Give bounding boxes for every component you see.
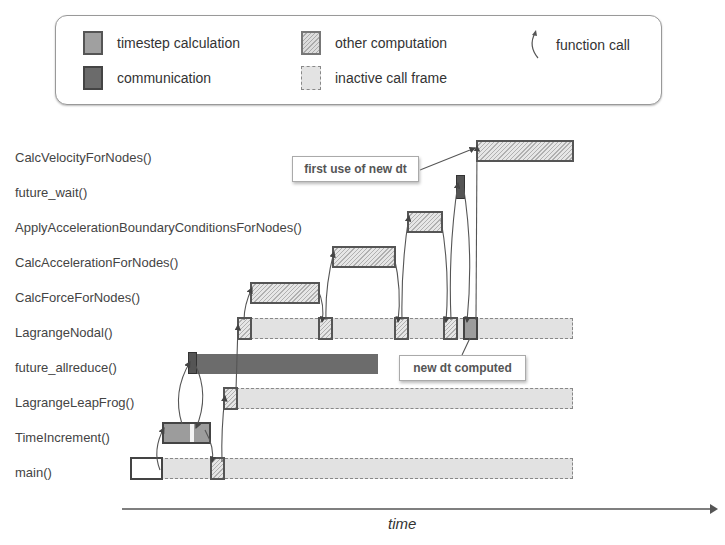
time-axis-label: time: [388, 515, 416, 532]
callout-first-use: first use of new dt: [292, 156, 419, 182]
callout-new-dt: new dt computed: [399, 355, 526, 381]
function-call-arrows: [0, 0, 725, 545]
